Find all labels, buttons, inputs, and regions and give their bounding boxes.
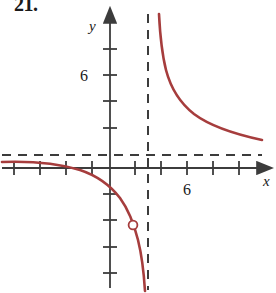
x-tick-label-6: 6: [183, 181, 191, 198]
y-axis-label: y: [87, 18, 96, 34]
x-axis-label: x: [262, 173, 270, 189]
graph-canvas: y x 6 6: [0, 0, 276, 293]
y-tick-label-6: 6: [80, 67, 88, 84]
curve-left-branch: [2, 162, 145, 291]
curve-right-branch: [159, 14, 262, 140]
open-circle-hole: [129, 221, 138, 230]
figure-container: 21.: [0, 0, 276, 293]
